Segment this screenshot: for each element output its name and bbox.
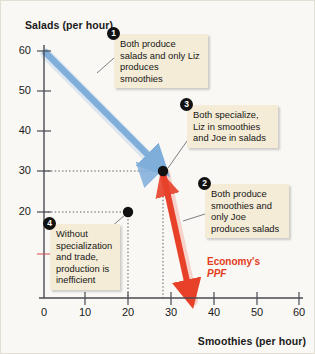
y-tick-30: 30	[9, 164, 31, 176]
ppf-label-line1: Economy's	[207, 256, 260, 267]
x-tick-10: 10	[74, 306, 96, 318]
x-tick-60: 60	[288, 306, 310, 318]
callout-1: Both produce salads and only Liz produce…	[114, 34, 208, 88]
y-tick-40: 40	[9, 124, 31, 136]
x-tick-40: 40	[203, 306, 225, 318]
x-tick-20: 20	[117, 306, 139, 318]
callout-3: Both specialize, Liz in smoothies and Jo…	[187, 105, 278, 148]
y-tick-50: 50	[9, 84, 31, 96]
callout-badge-1: 1	[107, 27, 120, 40]
ppf-label-line2: PPF	[207, 268, 226, 279]
x-tick-0: 0	[33, 306, 55, 318]
callout-4: Without specialization and trade, produc…	[50, 224, 120, 290]
callout-badge-3: 3	[180, 98, 193, 111]
callout-badge-2: 2	[198, 177, 211, 190]
specialization-point[interactable]	[158, 166, 168, 176]
y-tick-60: 60	[9, 44, 31, 56]
x-axis-title: Smoothies (per hour)	[198, 335, 306, 347]
inefficient-point[interactable]	[123, 207, 133, 217]
callout-badge-4: 4	[43, 217, 56, 230]
x-tick-50: 50	[246, 306, 268, 318]
y-axis-title: Salads (per hour)	[25, 19, 113, 31]
x-tick-30: 30	[160, 306, 182, 318]
ppf-chart-figure: Salads (per hour) Smoothies (per hour) 6…	[0, 0, 315, 354]
callout-2: Both produce smoothies and only Joe prod…	[205, 184, 289, 238]
y-tick-20: 20	[9, 205, 31, 217]
liz-arrow-back	[144, 170, 153, 179]
economy-ppf-label: Economy's PPF	[207, 256, 260, 279]
